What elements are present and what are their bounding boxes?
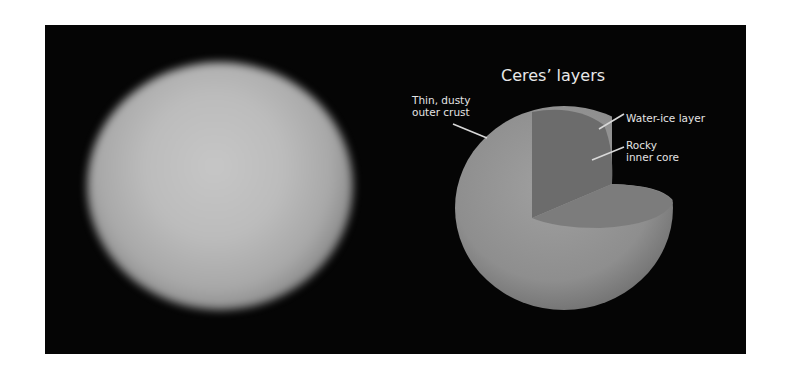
ceres-cutaway-diagram [0, 0, 788, 376]
label-outer-crust-line1: Thin, dusty [412, 94, 470, 106]
crust-leader-line [453, 124, 487, 138]
diagram-title: Ceres’ layers [501, 66, 605, 85]
label-inner-core-line1: Rocky [626, 139, 679, 151]
label-outer-crust: Thin, dusty outer crust [412, 94, 470, 118]
label-inner-core-line2: inner core [626, 151, 679, 163]
label-water-ice: Water-ice layer [626, 112, 705, 124]
label-outer-crust-line2: outer crust [412, 106, 470, 118]
label-inner-core: Rocky inner core [626, 139, 679, 163]
